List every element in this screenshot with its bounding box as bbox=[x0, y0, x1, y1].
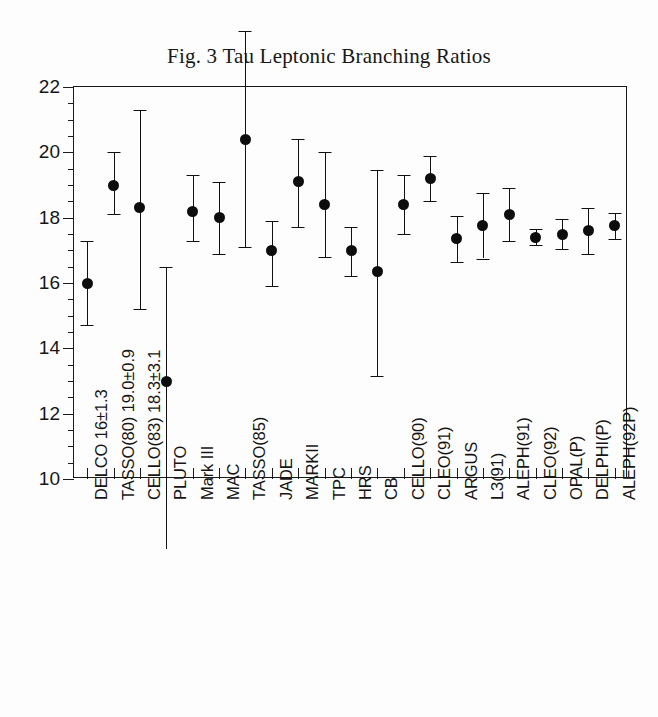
error-bar-cap-lower bbox=[608, 239, 621, 240]
y-axis-label: 10 bbox=[39, 468, 60, 490]
error-bar-cap-lower bbox=[450, 262, 463, 263]
error-bar-cap-upper bbox=[371, 170, 384, 171]
x-axis-label: TPC bbox=[330, 467, 349, 500]
error-bar-cap-upper bbox=[345, 227, 358, 228]
error-bar-cap-upper bbox=[186, 175, 199, 176]
data-point bbox=[187, 206, 198, 217]
y-tick-major bbox=[63, 348, 74, 349]
x-axis-label: CELLO(83) 18.3±3.1 bbox=[145, 350, 164, 500]
error-bar-cap-lower bbox=[345, 276, 358, 277]
data-point bbox=[609, 220, 620, 231]
x-axis-label: ALEPH(92P) bbox=[620, 407, 639, 500]
y-axis-label: 22 bbox=[39, 76, 60, 98]
x-axis-label: CB bbox=[382, 477, 401, 500]
x-axis-label: Mark III bbox=[198, 446, 217, 500]
data-point bbox=[504, 209, 515, 220]
error-bar-cap-upper bbox=[556, 219, 569, 220]
x-axis-label: DELPHI(P) bbox=[593, 419, 612, 500]
error-bar-cap-lower bbox=[582, 254, 595, 255]
error-bar-cap-lower bbox=[476, 259, 489, 260]
error-bar-cap-upper bbox=[160, 267, 173, 268]
error-bar-cap-upper bbox=[213, 182, 226, 183]
error-bar-cap-upper bbox=[608, 213, 621, 214]
data-point bbox=[557, 229, 568, 240]
figure-panel: Fig. 3 Tau Leptonic Branching Ratios 101… bbox=[0, 0, 658, 717]
data-point bbox=[108, 180, 119, 191]
error-bar-cap-lower bbox=[318, 257, 331, 258]
data-point bbox=[82, 278, 93, 289]
error-bar-cap-lower bbox=[81, 325, 94, 326]
data-point bbox=[134, 202, 145, 213]
error-bar-cap-lower bbox=[371, 376, 384, 377]
error-bar-cap-upper bbox=[476, 193, 489, 194]
x-axis-label: DELCO 16±1.3 bbox=[92, 389, 111, 500]
data-point bbox=[398, 199, 409, 210]
y-axis-label: 16 bbox=[39, 272, 60, 294]
data-point bbox=[346, 245, 357, 256]
error-bar-cap-lower bbox=[107, 214, 120, 215]
y-axis-label: 14 bbox=[39, 337, 60, 359]
x-axis-label: TASSO(80) 19.0±0.9 bbox=[119, 349, 138, 500]
data-point bbox=[583, 225, 594, 236]
x-axis-label: TASSO(85) bbox=[250, 417, 269, 500]
data-point bbox=[372, 266, 383, 277]
y-axis-label: 20 bbox=[39, 141, 60, 163]
y-tick-major bbox=[63, 283, 74, 284]
chart-title: Fig. 3 Tau Leptonic Branching Ratios bbox=[0, 44, 658, 69]
x-axis-label: L3(91) bbox=[488, 453, 507, 500]
x-axis-label: HRS bbox=[356, 465, 375, 500]
error-bar-cap-upper bbox=[424, 156, 437, 157]
error-bar-cap-upper bbox=[292, 139, 305, 140]
error-bar-cap-lower bbox=[424, 201, 437, 202]
error-bar-cap-upper bbox=[450, 216, 463, 217]
y-tick-major bbox=[63, 414, 74, 415]
x-axis-label: PLUTO bbox=[171, 446, 190, 500]
y-tick-major bbox=[63, 152, 74, 153]
data-point bbox=[451, 233, 462, 244]
y-axis-label: 12 bbox=[39, 403, 60, 425]
error-bar-cap-upper bbox=[107, 152, 120, 153]
data-point bbox=[293, 176, 304, 187]
x-axis-label: MAC bbox=[224, 464, 243, 500]
x-axis-label: OPAL(P) bbox=[567, 436, 586, 500]
error-bar-cap-upper bbox=[529, 229, 542, 230]
error-bar-cap-lower bbox=[186, 241, 199, 242]
error-bar-cap-upper bbox=[81, 241, 94, 242]
error-bar-cap-lower bbox=[265, 286, 278, 287]
y-tick-major bbox=[63, 218, 74, 219]
error-bar-cap-lower bbox=[529, 245, 542, 246]
data-point bbox=[477, 220, 488, 231]
error-bar-cap-upper bbox=[239, 31, 252, 32]
error-bar-cap-lower bbox=[556, 249, 569, 250]
error-bar-cap-lower bbox=[213, 254, 226, 255]
y-axis-label: 18 bbox=[39, 207, 60, 229]
y-tick-major bbox=[63, 479, 74, 480]
x-axis-label: CLEO(91) bbox=[435, 427, 454, 500]
error-bar bbox=[166, 267, 167, 549]
data-point bbox=[425, 173, 436, 184]
data-point bbox=[319, 199, 330, 210]
x-axis-label: ARGUS bbox=[462, 442, 481, 500]
error-bar-cap-upper bbox=[503, 188, 516, 189]
error-bar-cap-lower bbox=[397, 234, 410, 235]
error-bar-cap-lower bbox=[239, 247, 252, 248]
x-axis-label: CLEO(92) bbox=[541, 427, 560, 500]
data-point bbox=[266, 245, 277, 256]
x-axis-label: MARKII bbox=[303, 444, 322, 500]
error-bar-cap-upper bbox=[265, 221, 278, 222]
y-tick-major bbox=[63, 87, 74, 88]
error-bar-cap-lower bbox=[292, 227, 305, 228]
error-bar-cap-lower bbox=[133, 309, 146, 310]
x-axis-label: JADE bbox=[277, 458, 296, 500]
error-bar-cap-upper bbox=[397, 175, 410, 176]
error-bar-cap-upper bbox=[582, 208, 595, 209]
x-axis-label: CELLO(90) bbox=[409, 417, 428, 500]
x-axis-label: ALEPH(91) bbox=[514, 417, 533, 500]
error-bar-cap-lower bbox=[503, 241, 516, 242]
data-point bbox=[240, 134, 251, 145]
error-bar-cap-upper bbox=[133, 110, 146, 111]
data-point bbox=[214, 212, 225, 223]
data-point bbox=[530, 232, 541, 243]
error-bar-cap-upper bbox=[318, 152, 331, 153]
